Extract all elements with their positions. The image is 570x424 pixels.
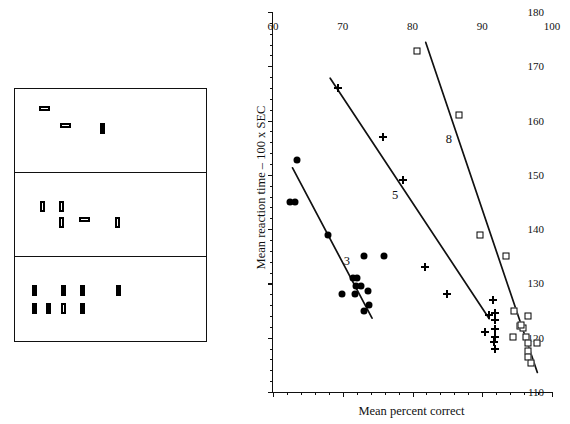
y-tick [270,294,273,295]
x-tick [510,392,511,395]
y-tick-label: 130 [528,277,545,289]
stimulus-item-vertical-filled [32,285,37,296]
data-point-setsize-5 [443,290,451,298]
data-point-setsize-8 [533,340,540,347]
data-point-setsize-3 [352,291,359,298]
y-tick [270,186,273,187]
y-tick [270,99,273,100]
series-annotation-3: 3 [344,253,350,268]
data-point-setsize-3 [357,282,364,289]
stimulus-panel-setsize-8 [15,257,206,341]
y-tick [270,273,273,274]
data-point-setsize-8 [455,112,462,119]
stimulus-item-vertical-outlined [40,201,45,212]
plot-frame: 11012013014015016017018060708090100358 [272,12,552,393]
x-tick [496,392,497,395]
y-tick-label: 170 [528,60,545,72]
y-tick [270,327,273,328]
y-tick [270,251,273,252]
stimulus-item-vertical-filled [80,285,85,296]
y-tick [270,262,273,263]
y-tick-label: 160 [528,115,545,127]
y-tick-label: 140 [528,223,545,235]
y-tick [270,316,273,317]
x-tick [301,392,302,395]
stimulus-item-vertical-outlined [61,303,66,314]
data-point-setsize-3 [366,302,373,309]
stimulus-item-vertical-filled [100,123,105,134]
x-tick-label: 90 [477,20,488,32]
data-point-setsize-3 [360,307,367,314]
data-point-setsize-8 [525,340,532,347]
stimulus-item-horizontal-outlined [39,106,50,111]
stimulus-panel-setsize-3 [15,89,206,173]
x-tick [482,392,483,397]
y-tick [268,175,273,176]
data-point-setsize-3 [291,199,298,206]
data-point-setsize-5 [379,133,387,141]
stimulus-item-vertical-filled [61,285,66,296]
x-tick-label: 80 [407,20,418,32]
stimulus-item-vertical-outlined [59,201,64,212]
y-tick [268,229,273,230]
y-tick [268,121,273,122]
data-point-setsize-3 [339,291,346,298]
data-point-setsize-3 [294,156,301,163]
y-tick [270,240,273,241]
stimulus-item-horizontal-outlined [79,217,90,222]
y-tick [270,370,273,371]
y-tick-label: 110 [528,386,544,398]
stimulus-item-vertical-filled [32,303,37,314]
x-tick [329,392,330,395]
x-tick-label: 100 [544,20,561,32]
data-point-setsize-8 [518,321,525,328]
data-point-setsize-5 [489,296,497,304]
y-tick [270,45,273,46]
y-tick [270,55,273,56]
stimulus-item-vertical-filled [80,303,85,314]
x-tick [357,392,358,395]
y-tick [270,164,273,165]
x-tick [426,392,427,395]
stimulus-item-vertical-outlined [115,217,120,228]
data-point-setsize-5 [481,328,489,336]
stimulus-item-vertical-outlined [59,217,64,228]
y-tick [270,131,273,132]
data-point-setsize-5 [491,316,499,324]
stimulus-item-horizontal-outlined [60,123,71,128]
fit-line-setsize-3 [293,168,373,318]
series-annotation-8: 8 [446,132,452,147]
data-point-setsize-8 [510,307,517,314]
scatter-chart: 11012013014015016017018060708090100358 M… [232,0,570,424]
y-tick [268,12,273,13]
data-point-setsize-3 [360,253,367,260]
data-point-setsize-5 [491,345,499,353]
y-tick [270,110,273,111]
y-tick [270,34,273,35]
y-tick [270,349,273,350]
series-annotation-5: 5 [392,188,398,203]
stimulus-diagram [14,88,207,342]
x-tick [287,392,288,395]
data-point-setsize-8 [414,48,421,55]
y-tick-label: 150 [528,169,545,181]
y-tick [270,197,273,198]
data-point-setsize-5 [399,176,407,184]
y-tick [268,66,273,67]
data-point-setsize-5 [421,263,429,271]
data-point-setsize-3 [354,275,361,282]
y-axis-title: Mean reaction time – 100 x SEC [254,63,269,313]
y-tick [270,207,273,208]
x-tick [413,392,414,397]
y-tick [270,381,273,382]
stimulus-panel-setsize-5 [15,173,206,257]
x-tick [399,392,400,395]
stimulus-item-vertical-filled [116,285,121,296]
data-point-setsize-8 [525,313,532,320]
data-point-setsize-3 [364,288,371,295]
x-tick-label: 60 [268,20,279,32]
y-tick [268,283,273,284]
x-tick [273,392,274,397]
x-tick [552,392,553,397]
stimulus-item-vertical-filled [46,303,51,314]
